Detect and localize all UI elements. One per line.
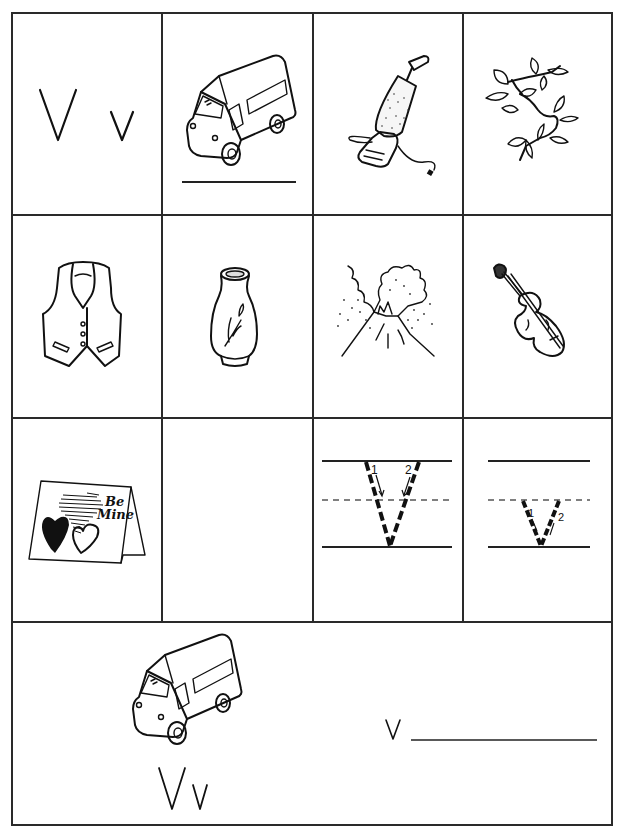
bottom-panel-graphic [13, 623, 611, 824]
cell-vest: vest [13, 216, 161, 417]
volcano-icon [314, 216, 462, 417]
cell-van: van [163, 14, 312, 214]
vest-icon [13, 216, 161, 417]
cell-tracing-lower: 1 2 v [464, 419, 611, 621]
stroke-number-1: 1 [528, 507, 534, 519]
vacuum-icon [314, 14, 462, 214]
cell-valentine: Be Mine [13, 419, 161, 621]
stroke-number-2: 2 [558, 511, 564, 523]
bottom-panel: van Vv v [13, 623, 611, 824]
stroke-number-1: 1 [371, 463, 378, 477]
card-text-line2: Mine [96, 507, 134, 522]
valentine-card-icon: Be Mine [13, 419, 161, 621]
tracing-guide-upper: 1 2 [314, 419, 462, 621]
tracing-guide-lower: 1 2 [464, 419, 611, 621]
cell-vine: vine [464, 14, 611, 214]
cell-vase: vase [163, 216, 312, 417]
letter-pair-graphic [13, 14, 161, 214]
vase-icon [163, 216, 312, 417]
violin-icon [464, 216, 611, 417]
van-icon [163, 14, 312, 214]
cell-empty [163, 419, 312, 621]
van-icon [133, 635, 242, 744]
cell-violin: violin [464, 216, 611, 417]
cell-letters: V v [13, 14, 161, 214]
stroke-number-2: 2 [405, 463, 412, 477]
vine-icon [464, 14, 611, 214]
cell-tracing-upper: 1 2 V [314, 419, 462, 621]
cell-volcano: volcano [314, 216, 462, 417]
cell-vacuum: vacuum [314, 14, 462, 214]
